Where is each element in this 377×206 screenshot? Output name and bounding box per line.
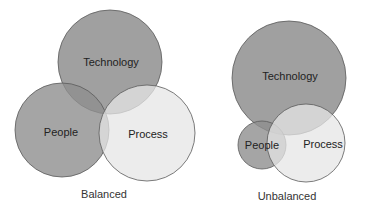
unbalanced-technology-label: Technology: [262, 70, 318, 82]
unbalanced-people-label: People: [245, 139, 279, 151]
balanced-caption: Balanced: [81, 188, 127, 200]
balanced-process-label: Process: [128, 128, 168, 140]
unbalanced-process-label: Process: [303, 138, 343, 150]
balanced-diagram: Technology People Process Balanced: [15, 10, 195, 200]
unbalanced-caption: Unbalanced: [258, 190, 317, 202]
unbalanced-diagram: Technology People Process Unbalanced: [232, 21, 346, 202]
balanced-technology-label: Technology: [83, 56, 139, 68]
balanced-people-label: People: [44, 126, 78, 138]
venn-diagrams: Technology People Process Balanced Techn…: [0, 0, 377, 206]
